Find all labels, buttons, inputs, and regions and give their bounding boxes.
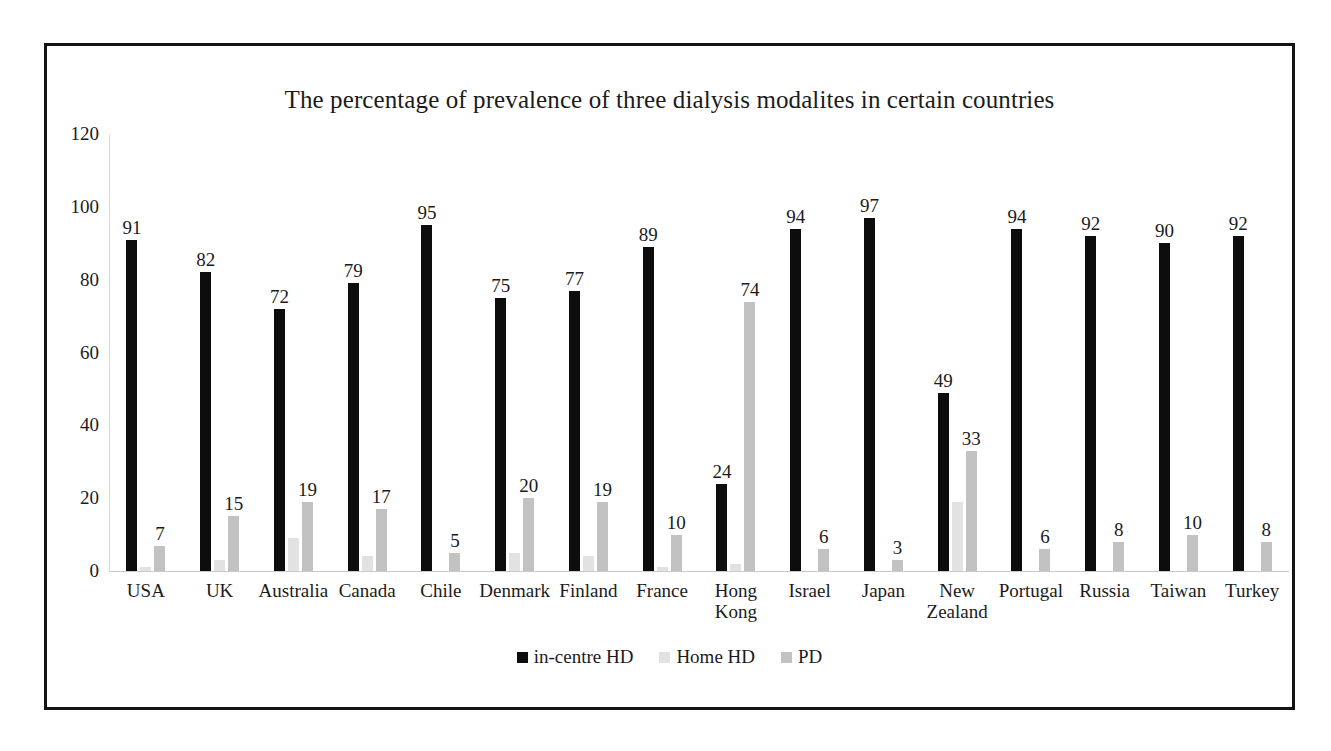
bar-in-centre-hd-usa[interactable]: 91 — [126, 240, 137, 571]
category-label-hong-kong: Hong Kong — [699, 580, 773, 623]
bar-pd-usa[interactable]: 7 — [154, 546, 165, 571]
category-label-new-zealand: New Zealand — [920, 580, 994, 623]
bars-row: 8910 — [643, 134, 682, 571]
bar-value-label: 82 — [196, 250, 215, 269]
bars-row: 4933 — [938, 134, 977, 571]
category-label-portugal: Portugal — [994, 580, 1068, 601]
category-label-uk: UK — [183, 580, 257, 601]
bar-value-label: 77 — [565, 269, 584, 288]
bar-pd-france[interactable]: 10 — [671, 535, 682, 571]
category-label-finland: Finland — [552, 580, 626, 601]
bars-row: 955 — [421, 134, 460, 571]
bar-value-label: 10 — [1183, 513, 1202, 532]
bar-in-centre-hd-uk[interactable]: 82 — [200, 272, 211, 571]
bar-value-label: 24 — [712, 462, 731, 481]
bars-row: 928 — [1085, 134, 1124, 571]
bar-value-label: 8 — [1114, 520, 1124, 539]
legend-swatch-icon — [517, 652, 528, 663]
bar-pd-hong-kong[interactable]: 74 — [744, 302, 755, 571]
bar-pd-taiwan[interactable]: 10 — [1187, 535, 1198, 571]
bar-value-label: 95 — [417, 203, 436, 222]
bar-pd-chile[interactable]: 5 — [449, 553, 460, 571]
category-label-australia: Australia — [257, 580, 331, 601]
bar-value-label: 6 — [1040, 527, 1050, 546]
bar-home-hd-france[interactable] — [657, 567, 668, 571]
bar-value-label: 49 — [934, 371, 953, 390]
y-axis-tick-0: 0 — [90, 560, 100, 582]
legend-item-home-hd[interactable]: Home HD — [659, 646, 755, 668]
legend-swatch-icon — [781, 652, 792, 663]
bar-in-centre-hd-finland[interactable]: 77 — [569, 291, 580, 571]
bar-group: 7520 — [495, 134, 534, 571]
bar-home-hd-new-zealand[interactable] — [952, 502, 963, 571]
bar-pd-japan[interactable]: 3 — [892, 560, 903, 571]
category-label-japan: Japan — [847, 580, 921, 601]
legend-item-in-centre-hd[interactable]: in-centre HD — [517, 646, 634, 668]
bar-value-label: 19 — [298, 480, 317, 499]
bar-value-label: 97 — [860, 196, 879, 215]
bar-value-label: 17 — [372, 487, 391, 506]
bar-home-hd-usa[interactable] — [140, 567, 151, 571]
y-axis-tick-labels: 020406080100120 — [47, 46, 99, 713]
bar-pd-finland[interactable]: 19 — [597, 502, 608, 571]
bar-value-label: 94 — [786, 207, 805, 226]
bar-in-centre-hd-portugal[interactable]: 94 — [1011, 229, 1022, 571]
bar-in-centre-hd-france[interactable]: 89 — [643, 247, 654, 571]
bar-pd-canada[interactable]: 17 — [376, 509, 387, 571]
bar-in-centre-hd-taiwan[interactable]: 90 — [1159, 243, 1170, 571]
bar-pd-denmark[interactable]: 20 — [523, 498, 534, 571]
legend-label: PD — [798, 646, 822, 668]
bar-home-hd-australia[interactable] — [288, 538, 299, 571]
bar-in-centre-hd-russia[interactable]: 92 — [1085, 236, 1096, 571]
y-axis-tick-80: 80 — [80, 269, 99, 291]
bar-value-label: 15 — [224, 494, 243, 513]
bar-value-label: 5 — [450, 531, 460, 550]
bar-pd-australia[interactable]: 19 — [302, 502, 313, 571]
category-label-turkey: Turkey — [1215, 580, 1289, 601]
legend-swatch-icon — [659, 652, 670, 663]
bar-group: 973 — [864, 134, 903, 571]
bar-value-label: 19 — [593, 480, 612, 499]
bar-in-centre-hd-turkey[interactable]: 92 — [1233, 236, 1244, 571]
bars-row: 8215 — [200, 134, 239, 571]
bar-value-label: 79 — [344, 261, 363, 280]
bar-in-centre-hd-canada[interactable]: 79 — [348, 283, 359, 571]
bar-value-label: 72 — [270, 287, 289, 306]
bar-group: 7719 — [569, 134, 608, 571]
bar-in-centre-hd-new-zealand[interactable]: 49 — [938, 393, 949, 571]
bar-in-centre-hd-israel[interactable]: 94 — [790, 229, 801, 571]
bar-pd-new-zealand[interactable]: 33 — [966, 451, 977, 571]
bar-pd-portugal[interactable]: 6 — [1039, 549, 1050, 571]
bar-pd-turkey[interactable]: 8 — [1261, 542, 1272, 571]
bar-home-hd-finland[interactable] — [583, 556, 594, 571]
bar-group: 946 — [1011, 134, 1050, 571]
bars-row: 973 — [864, 134, 903, 571]
figure-root: The percentage of prevalence of three di… — [0, 0, 1331, 751]
category-label-canada: Canada — [330, 580, 404, 601]
bar-in-centre-hd-japan[interactable]: 97 — [864, 218, 875, 571]
legend-item-pd[interactable]: PD — [781, 646, 822, 668]
category-label-chile: Chile — [404, 580, 478, 601]
bar-home-hd-denmark[interactable] — [509, 553, 520, 571]
legend-label: Home HD — [676, 646, 755, 668]
bar-value-label: 92 — [1081, 214, 1100, 233]
bar-in-centre-hd-chile[interactable]: 95 — [421, 225, 432, 571]
chart-frame: The percentage of prevalence of three di… — [44, 43, 1295, 710]
bars-row: 2474 — [716, 134, 755, 571]
bar-value-label: 94 — [1007, 207, 1026, 226]
bar-home-hd-hong-kong[interactable] — [730, 564, 741, 571]
bar-in-centre-hd-australia[interactable]: 72 — [274, 309, 285, 571]
bar-home-hd-uk[interactable] — [214, 560, 225, 571]
plot-area: 9178215721979179557520771989102474946973… — [109, 134, 1289, 571]
bar-pd-israel[interactable]: 6 — [818, 549, 829, 571]
bar-home-hd-canada[interactable] — [362, 556, 373, 571]
category-label-france: France — [625, 580, 699, 601]
bar-group: 8215 — [200, 134, 239, 571]
bars-row: 7917 — [348, 134, 387, 571]
bar-value-label: 92 — [1229, 214, 1248, 233]
bar-in-centre-hd-hong-kong[interactable]: 24 — [716, 484, 727, 571]
chart-legend: in-centre HDHome HDPD — [47, 646, 1292, 668]
bar-in-centre-hd-denmark[interactable]: 75 — [495, 298, 506, 571]
bar-pd-russia[interactable]: 8 — [1113, 542, 1124, 571]
bar-pd-uk[interactable]: 15 — [228, 516, 239, 571]
